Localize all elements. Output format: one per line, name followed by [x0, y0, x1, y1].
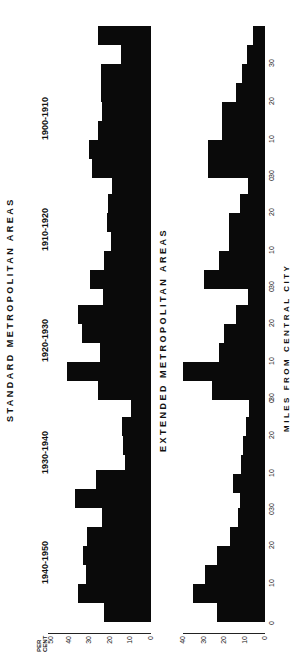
standard-bar-1930-1940-3	[123, 436, 151, 455]
standard-bar-1910-1920-6	[120, 156, 151, 175]
x-tick: 30	[268, 281, 275, 289]
standard-bar-1930-1940-7	[131, 360, 151, 379]
x-tick: 10	[268, 579, 275, 587]
standard-bar-1910-1920-5	[112, 175, 151, 194]
extended-y-axis	[183, 633, 265, 634]
x-tick: 20	[268, 319, 275, 327]
standard-bar-1920-1930-7	[114, 248, 151, 267]
extended-bar-1920-1930-4	[236, 305, 265, 324]
period-label-1940-1950: 1940-1950	[40, 541, 50, 584]
extended-y-tick: 0	[261, 636, 268, 652]
x-tick: 30	[268, 170, 275, 178]
standard-bar-1940-1950-5	[102, 508, 151, 527]
standard-bar-1910-1920-7	[131, 137, 151, 156]
standard-bar-1940-1950-7	[96, 470, 151, 489]
extended-bar-1910-1920-5	[248, 175, 265, 194]
standard-y-axis	[48, 633, 151, 634]
standard-bar-1910-1920-4	[108, 194, 151, 213]
extended-bar-1910-1920-7	[257, 137, 265, 156]
standard-bar-1900-1910-4	[101, 83, 151, 102]
standard-bar-1920-1930-4	[78, 305, 151, 324]
x-tick: 10	[268, 357, 275, 365]
standard-y-tick: 0	[147, 636, 154, 652]
standard-bar-1900-1910-3	[102, 102, 151, 121]
x-tick: 30	[268, 59, 275, 67]
extended-bar-1920-1930-3	[224, 324, 265, 343]
standard-y-tick: 30	[85, 636, 92, 652]
extended-bar-1940-1950-1	[193, 584, 265, 603]
standard-bar-1930-1940-5	[131, 398, 151, 417]
extended-bar-1920-1930-6	[250, 267, 265, 286]
standard-y-tick: 40	[65, 636, 72, 652]
extended-bar-1930-1940-7	[256, 360, 265, 379]
extended-bar-1900-1910-6	[247, 45, 265, 64]
x-tick: 30	[268, 503, 275, 511]
x-tick: 20	[268, 431, 275, 439]
x-tick: 20	[268, 541, 275, 549]
standard-y-tick: 20	[106, 636, 113, 652]
extended-title: EXTENDED METROPOLITAN AREAS	[158, 228, 168, 452]
extended-y-tick: 30	[200, 636, 207, 652]
extended-bar-1940-1950-6	[240, 489, 265, 508]
extended-bar-1900-1910-4	[236, 83, 265, 102]
standard-bar-1940-1950-2	[86, 565, 151, 584]
extended-bar-1900-1910-7	[253, 26, 265, 45]
period-label-1910-1920: 1910-1920	[40, 208, 50, 251]
extended-bar-1910-1920-4	[240, 194, 265, 213]
standard-bar-1940-1950-3	[83, 546, 151, 565]
x-tick: 20	[268, 97, 275, 105]
standard-bar-1920-1930-5	[103, 286, 151, 305]
x-axis-title: MILES FROM CENTRAL CITY	[282, 264, 291, 432]
period-label-1920-1930: 1920-1930	[40, 319, 50, 362]
standard-y-tick: 50	[47, 636, 54, 652]
standard-title: STANDARD METROPOLITAN AREAS	[5, 197, 15, 422]
standard-y-tick: 10	[126, 636, 133, 652]
extended-bar-1920-1930-7	[252, 248, 265, 267]
extended-y-tick: 20	[220, 636, 227, 652]
standard-bar-1920-1930-3	[82, 324, 151, 343]
extended-bar-1940-1950-4	[230, 527, 265, 546]
extended-bar-1940-1950-5	[238, 508, 265, 527]
standard-bar-1910-1920-3	[107, 213, 151, 232]
standard-bar-1940-1950-0	[104, 603, 151, 622]
extended-bar-1910-1920-3	[229, 213, 265, 232]
figure: STANDARD METROPOLITAN AREAS EXTENDED MET…	[0, 0, 305, 652]
standard-bar-1930-1940-6	[127, 379, 151, 398]
extended-y-tick: 10	[241, 636, 248, 652]
extended-y-tick: 40	[179, 636, 186, 652]
x-tick: 0	[268, 511, 275, 515]
x-tick: 30	[268, 393, 275, 401]
x-tick: 10	[268, 246, 275, 254]
standard-bar-1940-1950-1	[78, 584, 151, 603]
extended-bar-1930-1940-3	[243, 436, 265, 455]
extended-bar-1910-1920-6	[250, 156, 265, 175]
extended-bar-1940-1950-0	[217, 603, 265, 622]
x-tick: 10	[268, 469, 275, 477]
x-tick: 20	[268, 208, 275, 216]
extended-bar-1940-1950-3	[217, 546, 265, 565]
extended-bar-1900-1910-5	[242, 64, 265, 83]
standard-bar-1900-1910-5	[101, 64, 151, 83]
x-tick: 0	[268, 621, 275, 625]
extended-bar-1920-1930-5	[248, 286, 265, 305]
extended-bar-1900-1910-3	[222, 102, 265, 121]
x-tick: 10	[268, 135, 275, 143]
standard-bar-1940-1950-4	[87, 527, 151, 546]
extended-bar-1930-1940-6	[253, 379, 265, 398]
extended-bar-1940-1950-7	[246, 470, 265, 489]
standard-bar-1940-1950-6	[75, 489, 151, 508]
standard-bar-1920-1930-6	[113, 267, 151, 286]
period-label-1930-1940: 1930-1940	[40, 431, 50, 474]
extended-bar-1930-1940-5	[249, 398, 265, 417]
period-label-1900-1910: 1900-1910	[40, 97, 50, 140]
extended-bar-1940-1950-2	[205, 565, 265, 584]
standard-bar-1900-1910-7	[98, 26, 151, 45]
standard-bar-1930-1940-4	[122, 417, 151, 436]
standard-bar-1900-1910-6	[121, 45, 151, 64]
extended-bar-1930-1940-4	[246, 417, 265, 436]
